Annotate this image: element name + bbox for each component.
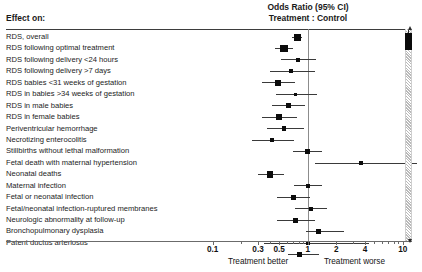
point-estimate-marker: [282, 126, 287, 131]
scale-indicator-bar: [405, 29, 412, 241]
axis-tick-label: 2: [334, 245, 339, 254]
forest-row: [206, 191, 412, 202]
plot-area: [206, 29, 412, 241]
forest-row: [206, 203, 412, 214]
row-label: Necrotizing enterocolitis: [6, 134, 206, 145]
arrow-down-icon: [408, 239, 412, 243]
forest-row: [206, 214, 412, 225]
axis-tick-minor: [388, 241, 389, 244]
row-label: RDS following delivery >7 days: [6, 65, 206, 76]
point-estimate-marker: [316, 229, 321, 234]
row-label: Fetal death with maternal hypertension: [6, 157, 206, 168]
row-label: RDS following delivery <24 hours: [6, 54, 206, 65]
point-estimate-marker: [294, 34, 301, 41]
row-label: Patent ductus arteriosus: [6, 237, 206, 248]
forest-row: [206, 31, 412, 42]
arrow-up-stem: [408, 30, 409, 33]
forest-row: [206, 157, 412, 168]
x-axis: 0.10.30.512410Treatment betterTreatment …: [206, 240, 412, 272]
row-label: Periventricular hemorrhage: [6, 123, 206, 134]
axis-tick-minor: [303, 241, 304, 244]
axis-tick-minor: [353, 241, 354, 244]
point-estimate-marker: [270, 138, 274, 142]
row-label: RDS in babies >34 weeks of gestation: [6, 88, 206, 99]
forest-row: [206, 123, 412, 134]
axis-tick-minor: [270, 241, 271, 244]
axis-left-extension: [6, 241, 206, 242]
row-label: RDS babies <31 weeks of gestation: [6, 77, 206, 88]
point-estimate-marker: [267, 171, 274, 178]
row-label: Maternal infection: [6, 180, 206, 191]
axis-tick-minor: [299, 241, 300, 244]
forest-row: [206, 134, 412, 145]
row-label: Neonatal deaths: [6, 168, 206, 179]
row-label: Fetal/neonatal infection-ruptured membra…: [6, 203, 206, 214]
axis-tick-label: 1: [305, 245, 310, 254]
forest-plot-figure: Effect on: Odds Ratio (95% CI) Treatment…: [0, 0, 422, 272]
row-label-column: RDS, overallRDS following optimal treatm…: [6, 31, 206, 260]
forest-row: [206, 168, 412, 179]
effect-on-heading: Effect on:: [6, 13, 45, 23]
axis-tick-label: 4: [363, 245, 368, 254]
chart-title: Odds Ratio (95% CI) Treatment : Control: [228, 2, 388, 23]
forest-row: [206, 180, 412, 191]
point-estimate-marker: [359, 161, 363, 165]
forest-row: [206, 77, 412, 88]
forest-row: [206, 226, 412, 237]
axis-tick-label: 10: [398, 245, 407, 254]
point-estimate-marker: [309, 207, 313, 211]
axis-tick-minor: [293, 241, 294, 244]
point-estimate-marker: [293, 218, 298, 223]
axis-tick-minor: [398, 241, 399, 244]
row-label: RDS in male babies: [6, 100, 206, 111]
point-estimate-marker: [280, 45, 288, 53]
point-estimate-marker: [276, 114, 282, 120]
forest-row: [206, 42, 412, 53]
axis-tick-minor: [394, 241, 395, 244]
row-label: Bronchopulmonary dysplasia: [6, 225, 206, 236]
axis-tick-label: 0.5: [273, 245, 284, 254]
row-label: RDS in female babies: [6, 111, 206, 122]
point-estimate-marker: [289, 69, 293, 73]
row-label: Neurologic abnormality at follow-up: [6, 214, 206, 225]
forest-row: [206, 88, 412, 99]
point-estimate-marker: [305, 149, 310, 154]
axis-tick-label: 0.3: [252, 245, 263, 254]
row-label: RDS following optimal treatment: [6, 42, 206, 53]
forest-row: [206, 54, 412, 65]
axis-note-treatment-better: Treatment better: [228, 257, 288, 266]
row-label: Stillbirths without lethal malformation: [6, 145, 206, 156]
row-label: [6, 248, 206, 259]
axis-tick-minor: [241, 241, 242, 244]
forest-row: [206, 100, 412, 111]
row-label: Fetal or neonatal infection: [6, 191, 206, 202]
point-estimate-marker: [294, 93, 298, 97]
point-estimate-marker: [275, 80, 281, 86]
point-estimate-marker: [296, 58, 300, 62]
forest-row: [206, 65, 412, 76]
forest-row: [206, 111, 412, 122]
row-label: RDS, overall: [6, 31, 206, 42]
confidence-interval-line: [315, 163, 416, 164]
point-estimate-marker: [306, 184, 310, 188]
forest-row: [206, 146, 412, 157]
axis-tick-minor: [287, 241, 288, 244]
axis-note-treatment-worse: Treatment worse: [324, 257, 385, 266]
point-estimate-marker: [286, 103, 291, 108]
axis-tick-label: 0.1: [207, 245, 218, 254]
axis-tick-minor: [374, 241, 375, 244]
point-estimate-marker: [291, 195, 296, 200]
scale-indicator-block: [405, 33, 412, 50]
confidence-interval-line: [306, 231, 344, 232]
axis-tick-minor: [382, 241, 383, 244]
